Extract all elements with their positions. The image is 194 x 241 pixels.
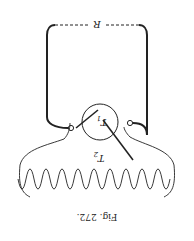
label-t1: T1 <box>96 114 107 128</box>
lead-wire-right <box>20 123 70 165</box>
label-r: R <box>93 19 102 30</box>
terminal-left <box>127 120 132 125</box>
circuit-diagram: Fig. 272. T2 T1 R <box>0 0 194 241</box>
figure-caption: Fig. 272. <box>77 212 118 222</box>
helix-coil <box>18 165 175 197</box>
contact-bar-right <box>76 110 98 128</box>
external-circuit <box>133 25 147 135</box>
label-t2: T2 <box>93 150 105 164</box>
